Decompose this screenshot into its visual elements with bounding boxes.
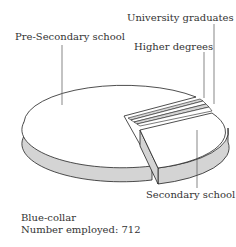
label-count: Number employed: 712 (21, 224, 141, 235)
label-group: Blue-collar (21, 212, 76, 223)
label-pre-secondary: Pre-Secondary school (15, 31, 125, 42)
slice-secondary (140, 113, 229, 184)
label-secondary: Secondary school (146, 189, 235, 200)
label-university: University graduates (127, 12, 234, 23)
label-higher: Higher degrees (134, 41, 213, 52)
